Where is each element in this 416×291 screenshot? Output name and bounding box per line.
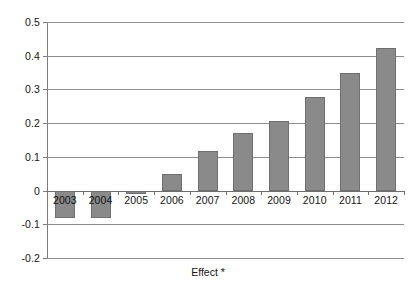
bar-chart: 0.5 0.4 0.3 0.2 0.1 0 [0,0,416,291]
x-tick-label: 2004 [89,194,113,206]
gridline--0.2 [47,258,404,259]
y-tick-label: 0.1 [25,151,40,162]
y-tick-label: -0.1 [22,219,41,230]
bar[interactable] [162,174,182,191]
x-tick-label: 2006 [160,194,184,206]
bar[interactable] [233,133,253,191]
x-tick-label: 2010 [303,194,327,206]
y-tick-label: -0.2 [22,253,41,264]
x-tick-mark [404,191,405,195]
bar-slot [154,22,190,258]
x-tick-label: 2008 [231,194,255,206]
x-tick-label: 2007 [196,194,220,206]
x-tick-mark [261,191,262,195]
bar-slot [261,22,297,258]
y-tick-label: 0.5 [25,17,40,28]
bar[interactable] [340,73,360,191]
y-tick-label: 0 [34,185,40,196]
bar[interactable] [305,97,325,190]
bar-slot [83,22,119,258]
bar[interactable] [198,151,218,191]
y-tick-label: 0.2 [25,118,40,129]
bar-slot [190,22,226,258]
x-tick-mark [154,191,155,195]
bar-slot [47,22,83,258]
bar-slot [297,22,333,258]
x-tick-mark [118,191,119,195]
x-tick-mark [368,191,369,195]
x-tick-mark [226,191,227,195]
bar-slot [226,22,262,258]
bar-slot [333,22,369,258]
x-tick-label: 2005 [124,194,148,206]
x-tick-mark [297,191,298,195]
x-tick-label: 2003 [53,194,77,206]
tick-mark--0.2 [43,258,47,259]
y-tick-label: 0.4 [25,50,40,61]
y-tick-label: 0.3 [25,84,40,95]
bar-slot [368,22,404,258]
x-tick-mark [190,191,191,195]
bar[interactable] [269,121,289,191]
x-tick-mark [333,191,334,195]
x-axis-title: Effect * [0,266,416,278]
plot-area: 0.5 0.4 0.3 0.2 0.1 0 [47,22,404,258]
x-tick-mark [83,191,84,195]
x-tick-label: 2011 [339,194,362,206]
bar[interactable] [376,48,396,191]
bars-layer [47,22,404,258]
bar-slot [118,22,154,258]
x-tick-label: 2009 [267,194,291,206]
x-tick-label: 2012 [374,194,398,206]
